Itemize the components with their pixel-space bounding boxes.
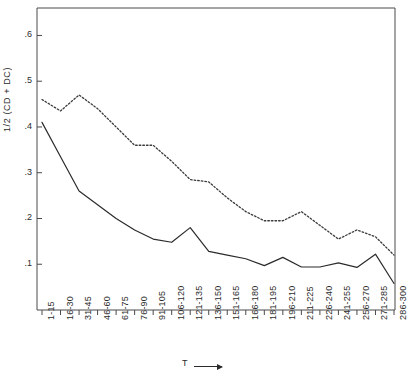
x-tick-label: 256-270 [361,286,371,320]
x-tick-label: 61-75 [120,296,130,320]
x-tick-label: 286-300 [398,286,408,320]
x-tick-label: 121-135 [194,286,204,320]
y-tick-label: .2 [18,212,32,222]
x-tick-label: 166-180 [250,286,260,320]
series-line-upper-dotted [42,95,394,255]
x-tick-label: 106-120 [176,286,186,320]
x-tick-label: 211-225 [305,286,315,320]
x-tick-label: 241-255 [342,286,352,320]
x-tick-label: 226-240 [324,286,334,320]
x-tick-label: 151-165 [231,286,241,320]
frame-border [37,8,395,310]
y-tick-label: .6 [18,29,32,39]
x-tick-label: 196-210 [287,286,297,320]
x-axis-title: T [182,358,188,368]
y-tick-label: .5 [18,75,32,85]
x-tick-label: 91-105 [157,291,167,320]
x-tick-label: 1-15 [46,301,56,320]
series-line-lower-solid [42,122,394,283]
x-tick-label: 181-195 [268,286,278,320]
x-tick-label: 31-45 [83,296,93,320]
x-tick-label: 16-30 [65,296,75,320]
y-tick-label: .1 [18,258,32,268]
y-axis-tick-marks [37,35,42,264]
y-tick-label: .4 [18,121,32,131]
x-tick-label: 46-60 [102,296,112,320]
x-tick-label: 76-90 [139,296,149,320]
y-tick-label: .3 [18,167,32,177]
x-tick-label: 136-150 [213,286,223,320]
x-axis-arrow-icon [194,366,222,367]
x-tick-label: 271-285 [379,286,389,320]
plot-frame [37,8,395,310]
